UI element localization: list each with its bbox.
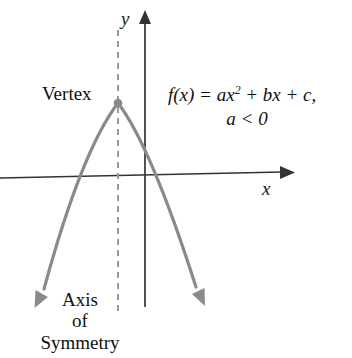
parabola-curve: [35, 103, 206, 308]
axis-of-symmetry-label: Axis of Symmetry: [14, 289, 146, 353]
equation-suffix: + bx + c,: [241, 84, 317, 105]
axis-of-symmetry-line3: Symmetry: [14, 332, 146, 353]
parabola-figure: y x Vertex Axis of Symmetry f(x) = ax2 +…: [0, 0, 352, 358]
equation-line-1: f(x) = ax2 + bx + c,: [168, 84, 352, 106]
equation-annotation: f(x) = ax2 + bx + c, a < 0: [168, 84, 352, 129]
x-axis: [0, 166, 295, 179]
x-axis-line: [0, 172, 282, 178]
x-axis-label: x: [262, 178, 270, 199]
parabola-path: [44, 103, 196, 289]
x-axis-arrowhead: [280, 166, 295, 179]
vertex-label: Vertex: [42, 83, 92, 104]
equation-line-2: a < 0: [168, 108, 352, 129]
y-axis-label: y: [121, 8, 129, 29]
y-axis-arrowhead: [139, 10, 151, 24]
axis-of-symmetry-line1: Axis: [14, 289, 146, 310]
vertex-point: [114, 99, 123, 108]
equation-prefix: f(x) = ax: [168, 84, 235, 105]
parabola-right-arrowhead: [192, 288, 205, 306]
axis-of-symmetry-line2: of: [14, 310, 146, 331]
